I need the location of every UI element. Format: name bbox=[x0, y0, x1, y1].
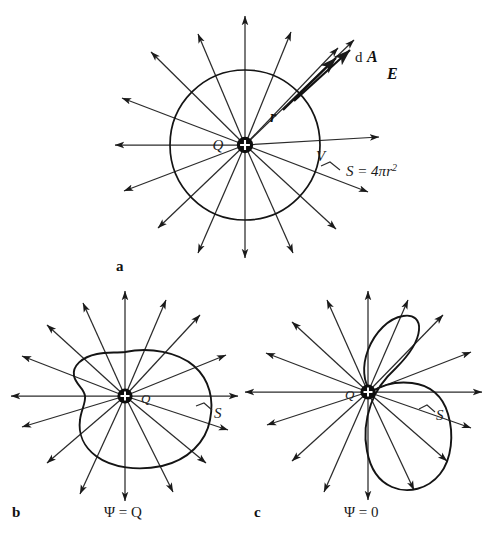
flux-label-c: Ψ = 0 bbox=[344, 504, 379, 520]
field-line bbox=[245, 48, 338, 145]
charge-label-a: Q bbox=[213, 137, 224, 153]
field-vector-E bbox=[294, 50, 350, 101]
charge-label-c: Q bbox=[345, 387, 355, 402]
surface-area-exponent: 2 bbox=[392, 162, 397, 173]
field-line bbox=[151, 52, 245, 145]
field-line bbox=[245, 32, 291, 145]
field-line bbox=[125, 396, 173, 492]
field-line bbox=[125, 315, 200, 396]
area-element-vector-dA bbox=[283, 58, 336, 110]
field-line bbox=[125, 396, 206, 463]
panel-letter-b: b bbox=[12, 504, 20, 520]
field-line bbox=[47, 325, 125, 396]
field-line bbox=[80, 396, 125, 494]
point-charge-c bbox=[360, 384, 375, 399]
field-line bbox=[368, 392, 447, 461]
field-line bbox=[122, 98, 245, 145]
figure-canvas: Q r V d A E S = 4πr2 a bbox=[0, 0, 493, 538]
panel-letter-a: a bbox=[116, 258, 124, 274]
field-line bbox=[198, 145, 245, 253]
field-line bbox=[324, 392, 368, 492]
field-label-E: E bbox=[386, 65, 398, 82]
field-line bbox=[292, 392, 368, 461]
field-line bbox=[292, 322, 368, 392]
panel-c: Q S c Ψ = 0 bbox=[245, 291, 482, 520]
point-charge-b bbox=[117, 388, 132, 403]
surface-label-pointer-b bbox=[196, 403, 212, 410]
field-line bbox=[198, 34, 245, 145]
panel-b: Q S b Ψ = Q bbox=[11, 291, 238, 520]
area-element-label-d: d bbox=[355, 49, 363, 65]
field-line bbox=[245, 137, 379, 145]
physics-figure-gauss-law: Q r V d A E S = 4πr2 a bbox=[0, 0, 493, 538]
panel-a-area-element-vectors bbox=[283, 50, 350, 110]
field-line bbox=[124, 145, 245, 191]
surface-label-b: S bbox=[214, 405, 222, 421]
field-line bbox=[22, 396, 125, 427]
point-charge-a bbox=[237, 137, 253, 153]
volume-label-a: V bbox=[316, 148, 327, 164]
panel-letter-c: c bbox=[254, 504, 261, 520]
gaussian-blob-surface-c bbox=[364, 316, 451, 490]
surface-area-label-main: S = 4πr bbox=[346, 163, 392, 179]
field-line bbox=[368, 392, 471, 428]
radius-label-a: r bbox=[270, 108, 277, 125]
panel-a-field-lines bbox=[115, 16, 379, 258]
charge-label-b: Q bbox=[141, 391, 151, 406]
area-element-label-A: A bbox=[366, 48, 378, 65]
flux-label-b: Ψ = Q bbox=[104, 504, 142, 520]
surface-area-label: S = 4πr2 bbox=[346, 162, 397, 179]
field-line bbox=[368, 392, 414, 490]
field-line bbox=[47, 396, 125, 463]
field-line bbox=[368, 315, 443, 392]
panel-a: Q r V d A E S = 4πr2 a bbox=[115, 16, 398, 274]
surface-label-c: S bbox=[436, 407, 444, 423]
